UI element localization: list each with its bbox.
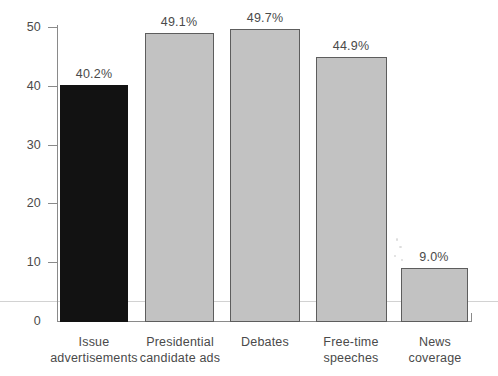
y-tick-mark-20 (48, 203, 57, 204)
y-tick-label-0: 0 (0, 314, 41, 328)
bar-issue-advertisements[interactable] (60, 85, 128, 322)
bar-value-news-coverage: 9.0% (394, 250, 474, 264)
scan-speck (396, 238, 398, 241)
bar-chart: 50 40 30 20 10 0 40.2% 49.1% 49.7% 44.9%… (0, 0, 498, 376)
bar-value-issue-advertisements: 40.2% (54, 67, 134, 81)
x-axis-end-tick (471, 313, 472, 322)
y-tick-label-40: 40 (0, 79, 41, 93)
bar-debates[interactable] (230, 29, 300, 322)
y-tick-mark-40 (48, 86, 57, 87)
y-tick-mark-50 (48, 27, 57, 28)
bar-free-time-speeches[interactable] (316, 57, 387, 322)
x-category-label-news-coverage: News coverage (375, 334, 495, 366)
bar-value-free-time-speeches: 44.9% (311, 39, 391, 53)
y-tick-label-30: 30 (0, 138, 41, 152)
bar-value-debates: 49.7% (225, 11, 305, 25)
y-tick-label-20: 20 (0, 196, 41, 210)
bar-value-presidential-candidate-ads: 49.1% (139, 15, 219, 29)
y-tick-mark-10 (48, 262, 57, 263)
bar-news-coverage[interactable] (401, 268, 468, 322)
y-tick-mark-30 (48, 145, 57, 146)
y-tick-label-10: 10 (0, 255, 41, 269)
bar-presidential-candidate-ads[interactable] (145, 33, 214, 322)
y-tick-label-50: 50 (0, 20, 41, 34)
scan-speck (399, 246, 402, 248)
